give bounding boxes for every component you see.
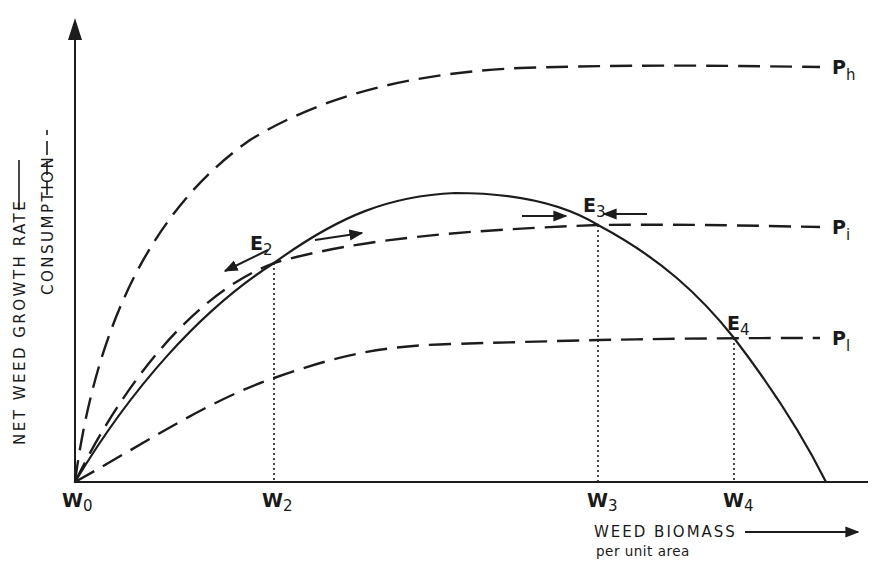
label-e2: E2	[250, 232, 273, 259]
label-ph: Ph	[832, 56, 855, 84]
x-tick-labels: W0 W2 W3 W4	[62, 489, 754, 515]
axes	[68, 18, 868, 482]
curve-labels: Ph Pi Pl	[832, 56, 855, 355]
tick-w4: W4	[723, 489, 754, 515]
tick-w2: W2	[262, 489, 293, 515]
consumption-curves	[75, 66, 820, 482]
tick-w0: W0	[62, 489, 93, 515]
equilibrium-labels: E2 E3 E4	[250, 194, 750, 339]
curve-pi	[75, 225, 820, 482]
y-axis-labels: NET WEED GROWTH RATE CONSUMPTION	[11, 130, 57, 445]
equilibrium-arrows	[225, 214, 647, 271]
tick-w3: W3	[587, 489, 618, 515]
label-pl: Pl	[832, 327, 850, 355]
y-axis-label-consumption: CONSUMPTION	[39, 155, 57, 295]
e2-right-arrow-icon	[315, 233, 362, 240]
weed-biomass-diagram: NET WEED GROWTH RATE CONSUMPTION E2 E3 E…	[0, 0, 872, 566]
label-e3: E3	[583, 194, 606, 221]
curve-pl	[75, 338, 820, 482]
y-axis-arrow-icon	[68, 18, 82, 40]
x-axis-label-group: WEED BIOMASS per unit area	[594, 523, 858, 559]
curve-ph	[75, 66, 820, 482]
curve-net-growth	[75, 193, 826, 482]
x-axis-sublabel: per unit area	[596, 543, 690, 559]
label-pi: Pi	[832, 216, 850, 244]
y-axis-label-growth: NET WEED GROWTH RATE	[11, 199, 29, 445]
drop-lines	[274, 225, 734, 482]
x-axis-label: WEED BIOMASS	[594, 523, 737, 541]
